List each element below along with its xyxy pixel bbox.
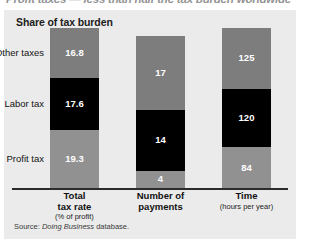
bar-segment-labor-tax: 14 xyxy=(136,110,185,171)
plot-area: Other taxes Labor tax Profit tax 16.8 17… xyxy=(4,28,296,188)
bar-segment-other-taxes: 17 xyxy=(136,36,185,110)
category-label-labor-tax: Labor tax xyxy=(0,98,44,109)
bar-segment-other-taxes: 16.8 xyxy=(50,28,99,78)
bar-value-other-taxes: 17 xyxy=(136,68,185,78)
source-prefix: Source: xyxy=(14,222,40,231)
bar-segment-profit-tax: 19.3 xyxy=(50,130,99,188)
axis-label-line1: Number of xyxy=(118,191,204,202)
bar-value-labor-tax: 17.6 xyxy=(50,100,99,110)
figure-headline: Profit taxes — less than half the tax bu… xyxy=(6,0,306,7)
axis-label-sub: (% of profit) xyxy=(32,212,118,222)
bar-segment-labor-tax: 120 xyxy=(222,89,271,147)
bar-value-profit-tax: 84 xyxy=(222,163,271,173)
axis-label-total-tax-rate: Total tax rate (% of profit) xyxy=(32,191,118,222)
axis-label-sub: (hours per year) xyxy=(204,202,290,212)
bar-total-tax-rate: 16.8 17.6 19.3 xyxy=(50,28,99,188)
bar-value-other-taxes: 125 xyxy=(222,54,271,64)
bar-value-profit-tax: 19.3 xyxy=(50,154,99,164)
bar-value-other-taxes: 16.8 xyxy=(50,48,99,58)
bar-value-profit-tax: 4 xyxy=(136,175,185,185)
bar-time: 125 120 84 xyxy=(222,28,271,188)
bar-value-labor-tax: 14 xyxy=(136,135,185,145)
axis-label-line2: tax rate xyxy=(32,202,118,213)
source-publication: Doing Business xyxy=(42,222,94,231)
category-label-profit-tax: Profit tax xyxy=(0,153,44,164)
bar-segment-labor-tax: 17.6 xyxy=(50,78,99,130)
axis-label-number-of-payments: Number of payments xyxy=(118,191,204,212)
axis-label-line2: payments xyxy=(118,202,204,213)
bar-segment-other-taxes: 125 xyxy=(222,28,271,89)
chart-panel: Share of tax burden Other taxes Labor ta… xyxy=(4,10,296,239)
axis-label-line1: Time xyxy=(204,191,290,202)
source-note: Source: Doing Business database. xyxy=(14,222,129,231)
bar-segment-profit-tax: 84 xyxy=(222,147,271,188)
axis-label-line1: Total xyxy=(32,191,118,202)
bar-number-of-payments: 17 14 4 xyxy=(136,36,185,188)
category-label-other-taxes: Other taxes xyxy=(0,47,44,58)
source-suffix: database. xyxy=(96,222,129,231)
axis-label-time: Time (hours per year) xyxy=(204,191,290,212)
bar-value-labor-tax: 120 xyxy=(222,113,271,123)
bar-segment-profit-tax: 4 xyxy=(136,171,185,188)
chart-title: Share of tax burden xyxy=(16,16,113,28)
